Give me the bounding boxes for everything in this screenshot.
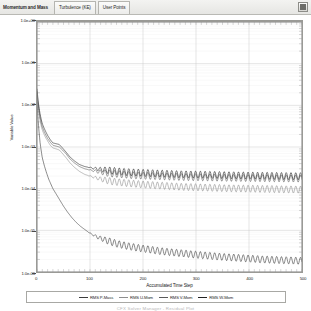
y-tick-mark	[32, 273, 36, 274]
legend-swatch	[79, 297, 88, 298]
legend-label: RMS U-Mom	[130, 295, 153, 300]
tab-turbulence-ke[interactable]: Turbulence (KE)	[54, 1, 96, 14]
tab-bar: Momentum and Mass Turbulence (KE) User P…	[0, 0, 311, 15]
legend-item[interactable]: RMS W-Mom	[198, 295, 233, 300]
legend-item[interactable]: RMS V-Mom	[159, 295, 192, 300]
x-tick-label: 100	[77, 276, 101, 281]
x-tick-label: 300	[184, 276, 208, 281]
residual-plot	[37, 22, 302, 272]
plot-area[interactable]	[36, 20, 303, 273]
x-axis-title: Accumulated Time Step	[36, 283, 303, 288]
legend-swatch	[159, 297, 168, 298]
legend-swatch	[198, 297, 207, 298]
legend-label: RMS W-Mom	[209, 295, 233, 300]
y-tick-label: 1.0e-01	[3, 60, 35, 65]
tab-user-points[interactable]: User Points	[98, 1, 131, 14]
y-tick-label: 1.0e+00	[3, 18, 35, 23]
residual-monitor-window: Momentum and Mass Turbulence (KE) User P…	[0, 0, 311, 311]
tab-label: Momentum and Mass	[3, 5, 48, 10]
close-icon[interactable]	[298, 2, 308, 12]
legend-swatch	[119, 297, 128, 298]
x-tick-label: 400	[238, 276, 262, 281]
legend-label: RMS V-Mom	[170, 295, 192, 300]
tab-momentum-and-mass[interactable]: Momentum and Mass	[0, 2, 52, 14]
y-tick-label: 1.0e-04	[3, 186, 35, 191]
y-tick-label: 1.0e-05	[3, 228, 35, 233]
figure-caption: CFX Solver Manager - Residual Plot	[0, 306, 311, 311]
legend-item[interactable]: RMS U-Mom	[119, 295, 153, 300]
y-tick-label: 1.0e-06	[3, 271, 35, 276]
y-tick-label: 1.0e-03	[3, 144, 35, 149]
tab-label: User Points	[103, 5, 126, 10]
legend-label: RMS P-Mass	[90, 295, 113, 300]
x-tick-label: 0	[24, 276, 48, 281]
chart-legend: RMS P-MassRMS U-MomRMS V-MomRMS W-Mom	[26, 291, 286, 303]
tab-label: Turbulence (KE)	[59, 5, 91, 10]
y-tick-label: 1.0e-02	[3, 102, 35, 107]
chart-container: Variable Value 1.0e+001.0e-011.0e-021.0e…	[0, 15, 311, 311]
x-tick-label: 200	[131, 276, 155, 281]
legend-item[interactable]: RMS P-Mass	[79, 295, 113, 300]
x-tick-label: 500	[291, 276, 311, 281]
